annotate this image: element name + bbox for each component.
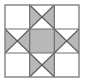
cell-corner-bottom-left [5,53,30,77]
center-square-fill [30,29,55,53]
quilt-block-figure [0,0,85,83]
corner-bottom-right-fill [54,53,79,77]
corner-top-right-fill [54,5,79,29]
cell-corner-top-left [5,5,30,29]
cell-corner-bottom-right [54,53,79,77]
cell-center-square [30,29,55,53]
quilt-block-svg [0,0,85,83]
corner-bottom-left-fill [5,53,30,77]
corner-top-left-fill [5,5,30,29]
cell-corner-top-right [54,5,79,29]
